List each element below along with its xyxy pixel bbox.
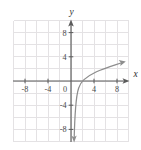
x-tick-label-zero: 0 xyxy=(63,85,67,94)
graph-figure: -8 -4 0 4 8 8 4 -4 -8 y x xyxy=(0,0,141,150)
coordinate-plane-graph: -8 -4 0 4 8 8 4 -4 -8 y x xyxy=(0,0,141,150)
x-tick-label-neg4: -4 xyxy=(45,85,52,94)
x-tick-label-4: 4 xyxy=(92,85,96,94)
x-tick-label-neg8: -8 xyxy=(22,85,29,94)
y-tick-label-8: 8 xyxy=(62,29,66,38)
x-tick-label-8: 8 xyxy=(115,85,119,94)
function-curve xyxy=(72,60,126,142)
y-tick-label-4: 4 xyxy=(62,53,66,62)
y-tick-label-neg8: -8 xyxy=(60,125,67,134)
y-axis-label: y xyxy=(68,7,74,17)
y-tick-label-neg4: -4 xyxy=(60,101,67,110)
axis-names: y x xyxy=(68,7,138,80)
x-axis-label: x xyxy=(132,69,138,79)
logarithmic-curve-path xyxy=(74,63,121,138)
